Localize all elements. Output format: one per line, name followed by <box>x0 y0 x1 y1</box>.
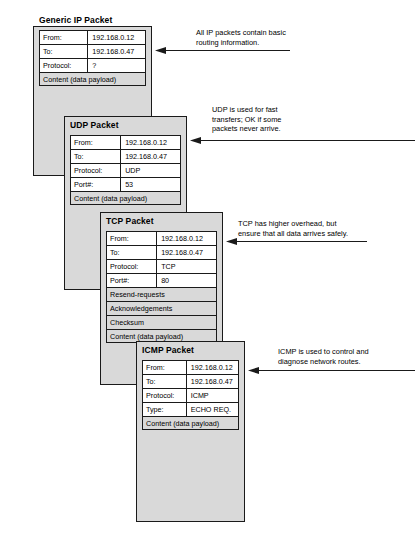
row-value: 192.168.0.12 <box>88 31 145 44</box>
row-label: To: <box>71 150 121 163</box>
table-row: From: 192.168.0.12 <box>39 30 146 44</box>
table-row: Checksum <box>106 315 217 329</box>
table-row: Acknowledgements <box>106 301 217 315</box>
table-row: From: 192.168.0.12 <box>106 231 217 245</box>
row-value: 80 <box>157 274 216 287</box>
row-value: ICMP <box>187 389 238 402</box>
row-label: Content (data payload) <box>143 417 238 429</box>
table-row: Type: ECHO REQ. <box>142 402 239 416</box>
table-row: Port#: 53 <box>70 177 181 191</box>
row-label: Content (data payload) <box>40 73 145 85</box>
annotation-generic-ip: All IP packets contain basic routing inf… <box>196 28 346 47</box>
packet-title-icmp: ICMP Packet <box>142 345 194 356</box>
row-label: To: <box>107 246 157 259</box>
arrow-icmp <box>248 367 415 374</box>
row-value: 192.168.0.12 <box>187 361 238 374</box>
annotation-icmp: ICMP is used to control and diagnose net… <box>278 347 415 366</box>
row-value: 192.168.0.47 <box>121 150 180 163</box>
row-value: ECHO REQ. <box>187 403 238 416</box>
packet-rows-udp: From: 192.168.0.12 To: 192.168.0.47 Prot… <box>70 135 181 205</box>
arrow-tcp <box>226 238 367 245</box>
packet-rows-tcp: From: 192.168.0.12 To: 192.168.0.47 Prot… <box>106 231 217 343</box>
table-row: Protocol: ? <box>39 58 146 72</box>
arrow-generic-ip <box>155 47 290 54</box>
table-row: Protocol: TCP <box>106 259 217 273</box>
row-label: Protocol: <box>40 59 88 72</box>
row-label: Protocol: <box>143 389 187 402</box>
row-label: From: <box>40 31 88 44</box>
row-label: Content (data payload) <box>71 192 180 204</box>
row-label: To: <box>40 45 88 58</box>
row-label: Protocol: <box>107 260 157 273</box>
row-label: Acknowledgements <box>107 302 216 315</box>
row-label: Resend-requests <box>107 288 216 301</box>
packet-rows-icmp: From: 192.168.0.12 To: 192.168.0.47 Prot… <box>142 360 239 430</box>
annotation-tcp: TCP has higher overhead, but ensure that… <box>238 219 413 238</box>
row-value: 192.168.0.47 <box>187 375 238 388</box>
row-label: Port#: <box>71 178 121 191</box>
table-row-payload: Content (data payload) <box>39 72 146 86</box>
table-row: Port#: 80 <box>106 273 217 287</box>
row-label: From: <box>143 361 187 374</box>
table-row: From: 192.168.0.12 <box>142 360 239 374</box>
table-row: Resend-requests <box>106 287 217 301</box>
row-value: 53 <box>121 178 180 191</box>
table-row: Protocol: UDP <box>70 163 181 177</box>
row-value: ? <box>88 59 145 72</box>
table-row: To: 192.168.0.47 <box>142 374 239 388</box>
row-value: UDP <box>121 164 180 177</box>
row-label: From: <box>107 232 157 245</box>
table-row: To: 192.168.0.47 <box>70 149 181 163</box>
row-value: 192.168.0.12 <box>121 136 180 149</box>
row-value: 192.168.0.12 <box>157 232 216 245</box>
packet-title-udp: UDP Packet <box>70 120 119 131</box>
packet-title-generic-ip: Generic IP Packet <box>39 15 112 26</box>
table-row: To: 192.168.0.47 <box>106 245 217 259</box>
table-row-payload: Content (data payload) <box>142 416 239 430</box>
row-label: Port#: <box>107 274 157 287</box>
row-label: Type: <box>143 403 187 416</box>
row-value: 192.168.0.47 <box>88 45 145 58</box>
table-row: Protocol: ICMP <box>142 388 239 402</box>
arrow-udp <box>190 137 415 144</box>
table-row: From: 192.168.0.12 <box>70 135 181 149</box>
annotation-udp: UDP is used for fast transfers; OK if so… <box>212 105 342 134</box>
row-value: TCP <box>157 260 216 273</box>
row-label: From: <box>71 136 121 149</box>
packet-title-tcp: TCP Packet <box>106 216 154 227</box>
row-label: Protocol: <box>71 164 121 177</box>
table-row: To: 192.168.0.47 <box>39 44 146 58</box>
row-label: To: <box>143 375 187 388</box>
row-label: Checksum <box>107 316 216 329</box>
packet-icmp: ICMP Packet From: 192.168.0.12 To: 192.1… <box>136 341 245 522</box>
packet-rows-generic-ip: From: 192.168.0.12 To: 192.168.0.47 Prot… <box>39 30 146 86</box>
table-row-payload: Content (data payload) <box>70 191 181 205</box>
row-value: 192.168.0.47 <box>157 246 216 259</box>
